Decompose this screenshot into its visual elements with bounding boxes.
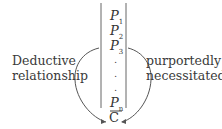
label-line: relationship bbox=[12, 68, 88, 83]
ellipsis-dot: . bbox=[114, 83, 117, 93]
label-line: Deductive bbox=[12, 53, 88, 68]
right-arrowhead bbox=[121, 119, 126, 124]
label-line: necessitated bbox=[146, 68, 222, 83]
ellipsis-dot: . bbox=[114, 69, 117, 79]
label-line: purportedly bbox=[146, 53, 222, 68]
argument-diagram: P1 P2 P3 . . . Pn C Deductive relationsh… bbox=[0, 0, 222, 129]
ellipsis-dot: . bbox=[114, 55, 117, 65]
conclusion: C bbox=[109, 111, 119, 125]
purportedly-necessitated-label: purportedly necessitated bbox=[146, 53, 222, 83]
deductive-relationship-label: Deductive relationship bbox=[12, 53, 88, 83]
